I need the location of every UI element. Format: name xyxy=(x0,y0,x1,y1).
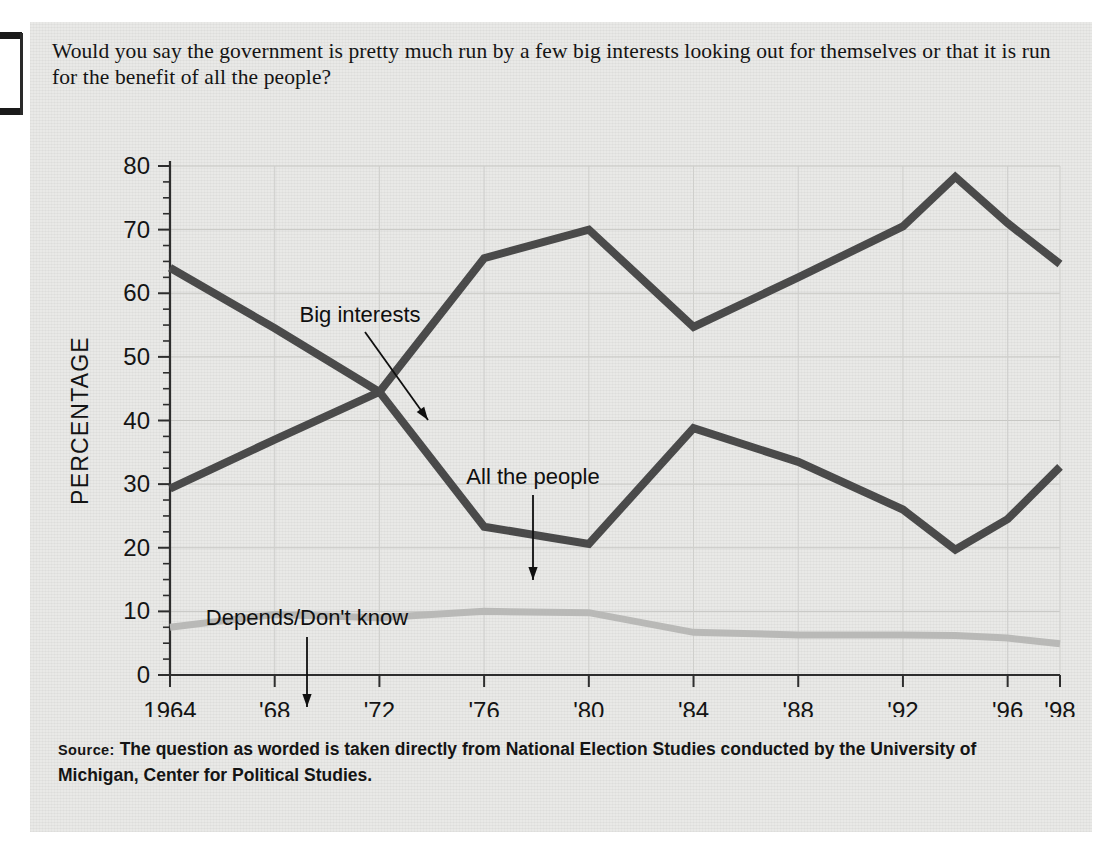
x-tick-label: '96 xyxy=(992,697,1023,717)
x-tick-label: '76 xyxy=(468,697,499,717)
y-tick-label: 50 xyxy=(123,343,150,370)
y-tick-label: 20 xyxy=(123,534,150,561)
x-tick-label: '98 xyxy=(1044,697,1075,717)
annotation-label: All the people xyxy=(466,464,599,489)
x-tick-label: '88 xyxy=(783,697,814,717)
x-tick-label: '84 xyxy=(678,697,709,717)
scan-mark-top xyxy=(0,32,22,39)
source-note: Source: The question as worded is taken … xyxy=(58,737,1058,788)
page-bottom-margin xyxy=(0,832,1110,851)
y-tick-label: 60 xyxy=(123,279,150,306)
annotation-arrowhead xyxy=(417,407,428,420)
scan-mark-bottom xyxy=(0,108,22,115)
y-tick-label: 10 xyxy=(123,597,150,624)
x-tick-label: '92 xyxy=(887,697,918,717)
y-tick-label: 70 xyxy=(123,216,150,243)
y-axis-title: PERCENTAGE xyxy=(67,336,93,505)
series-line-all-the-people xyxy=(170,177,1060,392)
page-top-margin xyxy=(0,0,1110,22)
line-chart: 010203040506070801964'68'72'76'80'84'88'… xyxy=(30,117,1092,717)
page-right-margin xyxy=(1092,0,1110,851)
x-tick-label: '72 xyxy=(364,697,395,717)
x-tick-label: 1964 xyxy=(143,697,196,717)
x-tick-label: '68 xyxy=(259,697,290,717)
page-left-margin xyxy=(0,0,30,851)
annotation-arrowhead xyxy=(528,567,537,580)
annotation-label: Depends/Don't know xyxy=(206,605,408,630)
y-tick-label: 0 xyxy=(137,661,150,688)
question-text: Would you say the government is pretty m… xyxy=(52,38,1052,90)
source-text: The question as worded is taken directly… xyxy=(58,739,976,785)
y-tick-label: 80 xyxy=(123,152,150,179)
series-line-big-interests xyxy=(170,392,1060,550)
annotation-arrowhead xyxy=(302,694,311,707)
y-tick-label: 30 xyxy=(123,470,150,497)
source-label: Source: xyxy=(58,742,115,758)
annotation-label: Big interests xyxy=(299,302,420,327)
figure-panel: Would you say the government is pretty m… xyxy=(30,22,1092,832)
x-tick-label: '80 xyxy=(573,697,604,717)
scan-mark-rule xyxy=(20,33,23,115)
y-tick-label: 40 xyxy=(123,407,150,434)
chart-plot-area: 010203040506070801964'68'72'76'80'84'88'… xyxy=(30,117,1092,717)
